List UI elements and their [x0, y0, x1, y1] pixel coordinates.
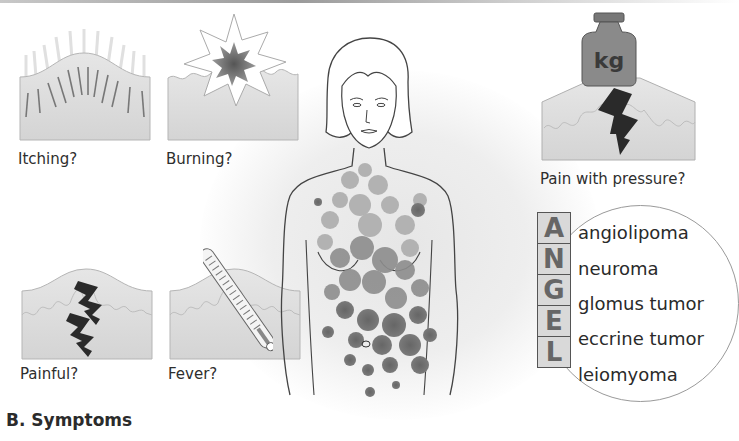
fever-label: Fever?: [168, 365, 217, 383]
top-border: [0, 0, 739, 3]
mnemonic-term-eccrine-tumor: eccrine tumor: [578, 328, 704, 349]
weight-kg-text: kg: [594, 48, 624, 73]
mnemonic-letters: A N G E L: [537, 213, 571, 368]
panel-painful: Painful?: [20, 265, 155, 385]
female-torso-figure: [270, 20, 500, 410]
panel-pressure: kg Pain with pressure?: [540, 10, 700, 190]
figure-caption: B. Symptoms: [6, 410, 132, 430]
mnemonic-letter-n: N: [537, 243, 571, 275]
mnemonic-term-leiomyoma: leiomyoma: [578, 364, 678, 385]
weight-icon: kg: [540, 10, 700, 175]
mnemonic-term-angiolipoma: angiolipoma: [578, 222, 689, 243]
mnemonic-term-neuroma: neuroma: [578, 258, 658, 279]
itch-lines-icon: [18, 25, 153, 145]
mnemonic-letter-l: L: [537, 336, 571, 368]
painful-label: Painful?: [20, 365, 78, 383]
itching-label: Itching?: [18, 150, 77, 168]
mnemonic-letter-g: G: [537, 274, 571, 306]
thermometer-icon: [203, 235, 273, 365]
mnemonic-letter-a: A: [537, 212, 571, 244]
lightning-bolt-icon: [20, 265, 155, 375]
pressure-label: Pain with pressure?: [540, 170, 685, 188]
mnemonic-term-glomus-tumor: glomus tumor: [578, 293, 704, 314]
mnemonic-letter-e: E: [537, 305, 571, 337]
panel-itching: Itching?: [18, 25, 153, 145]
burning-label: Burning?: [166, 150, 232, 168]
